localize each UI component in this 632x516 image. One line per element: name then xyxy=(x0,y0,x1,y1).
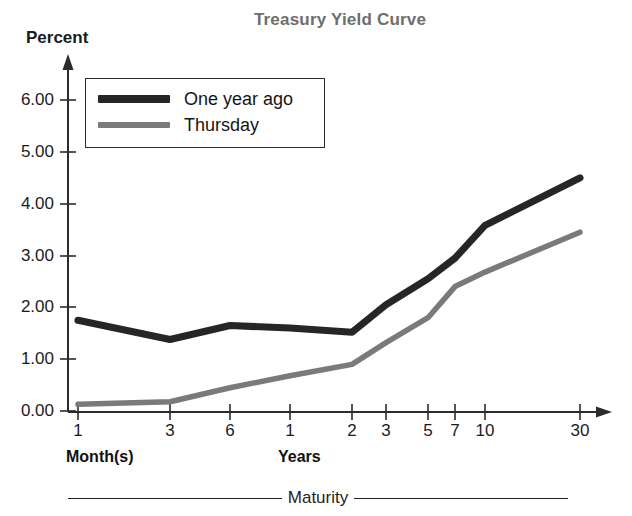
caption-rule-left xyxy=(68,498,282,499)
x-tick-label-6-month: 6 xyxy=(210,421,250,441)
series-line-one-year-ago xyxy=(78,178,580,340)
legend-swatch-one-year-ago xyxy=(98,95,170,103)
maturity-caption: Maturity xyxy=(68,488,568,508)
legend-label-one-year-ago: One year ago xyxy=(184,89,293,110)
legend: One year ago Thursday xyxy=(85,78,325,148)
x-tick-label-10-year: 10 xyxy=(465,421,505,441)
legend-label-thursday: Thursday xyxy=(184,115,259,136)
legend-swatch-thursday xyxy=(98,122,170,128)
caption-text: Maturity xyxy=(282,488,354,508)
y-tick-label-0: 0.00 xyxy=(2,401,54,421)
x-tick-label-3-month: 3 xyxy=(150,421,190,441)
y-axis-arrowhead xyxy=(63,54,74,70)
y-tick-label-5: 5.00 xyxy=(2,142,54,162)
y-tick-label-3: 3.00 xyxy=(2,246,54,266)
legend-entry-thursday: Thursday xyxy=(98,111,259,139)
caption-rule-right xyxy=(354,498,568,499)
x-group-label-months: Month(s) xyxy=(66,448,134,466)
y-tick-label-2: 2.00 xyxy=(2,297,54,317)
x-group-label-years: Years xyxy=(278,448,321,466)
y-tick-label-4: 4.00 xyxy=(2,194,54,214)
x-tick-label-30-year: 30 xyxy=(560,421,600,441)
legend-entry-one-year-ago: One year ago xyxy=(98,85,293,113)
y-tick-label-6: 6.00 xyxy=(2,90,54,110)
x-tick-label-1-month: 1 xyxy=(58,421,98,441)
series-line-thursday xyxy=(78,232,580,404)
chart-page: Treasury Yield Curve Percent xyxy=(0,0,632,516)
x-tick-label-3-year: 3 xyxy=(366,421,406,441)
x-axis-arrowhead xyxy=(596,407,612,418)
x-tick-label-1-year: 1 xyxy=(270,421,310,441)
y-tick-label-1: 1.00 xyxy=(2,349,54,369)
